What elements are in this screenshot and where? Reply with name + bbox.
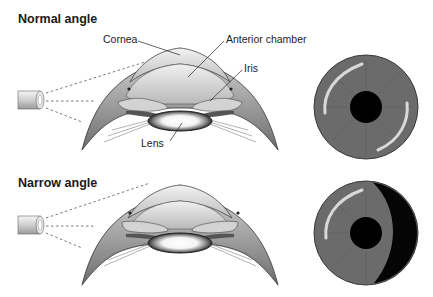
- gonioscopic-view-narrow: [314, 180, 430, 290]
- title-normal-angle: Normal angle: [18, 12, 97, 26]
- label-cornea: Cornea: [103, 33, 137, 45]
- gonioscope-icon-normal: [18, 91, 44, 109]
- diagram-canvas: [0, 0, 433, 297]
- gonioscopic-view-normal: [314, 55, 418, 159]
- narrow-angle-cross-section: [82, 185, 278, 285]
- gonioscope-icon-narrow: [18, 216, 44, 234]
- title-narrow-angle: Narrow angle: [18, 176, 97, 190]
- label-anterior-chamber: Anterior chamber: [226, 33, 307, 45]
- label-iris: Iris: [244, 62, 258, 74]
- label-lens: Lens: [141, 137, 164, 149]
